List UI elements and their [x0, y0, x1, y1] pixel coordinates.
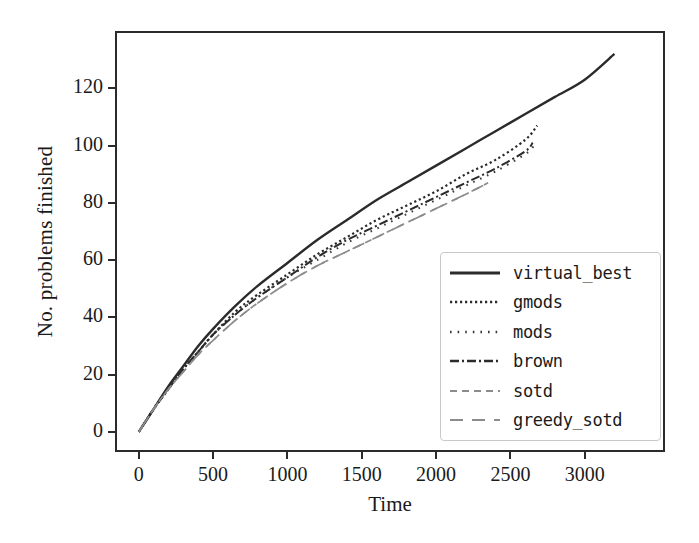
legend-item-virtual_best[interactable]: virtual_best — [449, 259, 652, 287]
y-tick-label: 80 — [83, 190, 103, 213]
x-tickmark — [212, 452, 214, 459]
y-axis-label: No. problems finished — [30, 31, 60, 452]
x-tickmark — [138, 452, 140, 459]
legend-swatch-brown-icon — [449, 353, 501, 369]
x-tickmark — [361, 452, 363, 459]
y-tick-label: 60 — [83, 247, 103, 270]
y-tick-label: 0 — [93, 419, 103, 442]
legend-label: greedy_sotd — [513, 410, 622, 430]
legend-label: virtual_best — [513, 263, 632, 283]
chart-figure: No. problems finished 120100806040200050… — [0, 0, 699, 543]
x-tickmark — [584, 452, 586, 459]
legend-label: gmods — [513, 292, 563, 312]
legend-swatch-virtual_best-icon — [449, 265, 501, 281]
y-tickmark — [108, 259, 115, 261]
legend-label: sotd — [513, 381, 553, 401]
x-tickmark — [286, 452, 288, 459]
legend-label: mods — [513, 322, 553, 342]
y-tick-label: 40 — [83, 304, 103, 327]
y-tickmark — [108, 202, 115, 204]
series-line-sotd — [139, 183, 488, 432]
x-tick-label: 3000 — [540, 463, 630, 486]
y-tickmark — [108, 145, 115, 147]
legend-swatch-sotd-icon — [449, 383, 501, 399]
x-axis-label: Time — [115, 492, 665, 517]
y-tickmark — [108, 316, 115, 318]
legend-item-sotd[interactable]: sotd — [449, 377, 652, 405]
y-tick-label: 20 — [83, 362, 103, 385]
series-line-greedy_sotd — [139, 183, 488, 432]
y-tickmark — [108, 87, 115, 89]
y-tick-label: 100 — [73, 133, 103, 156]
legend-item-brown[interactable]: brown — [449, 347, 652, 375]
y-tick-label: 120 — [73, 75, 103, 98]
x-tickmark — [435, 452, 437, 459]
y-tickmark — [108, 431, 115, 433]
legend-label: brown — [513, 351, 563, 371]
legend-item-greedy_sotd[interactable]: greedy_sotd — [449, 406, 652, 434]
chart-legend[interactable]: virtual_bestgmodsmodsbrownsotdgreedy_sot… — [440, 252, 661, 441]
x-tickmark — [509, 452, 511, 459]
legend-swatch-greedy_sotd-icon — [449, 412, 501, 428]
y-tickmark — [108, 374, 115, 376]
legend-swatch-gmods-icon — [449, 294, 501, 310]
legend-swatch-mods-icon — [449, 324, 501, 340]
legend-item-gmods[interactable]: gmods — [449, 288, 652, 316]
legend-item-mods[interactable]: mods — [449, 318, 652, 346]
